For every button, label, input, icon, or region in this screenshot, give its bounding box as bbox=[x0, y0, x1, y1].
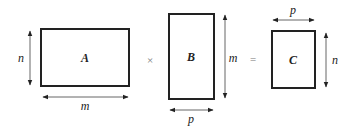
matrix-b-cols-label: p bbox=[187, 112, 194, 126]
equals-operator: = bbox=[250, 53, 256, 65]
matrix-b-rows-label: m bbox=[229, 51, 238, 65]
matrix-a-cols-label: m bbox=[81, 99, 90, 113]
matrix-a-label: A bbox=[80, 51, 89, 65]
matrix-c-rows-label: n bbox=[332, 53, 338, 67]
matrix-c: C p n bbox=[272, 3, 338, 88]
multiply-operator: × bbox=[147, 54, 153, 66]
matrix-a-rows-label: n bbox=[18, 51, 24, 65]
matrix-b: B m p bbox=[169, 14, 238, 126]
matrix-diagram: A n m × B m p = C p n bbox=[0, 0, 351, 128]
matrix-c-label: C bbox=[289, 53, 298, 67]
matrix-b-label: B bbox=[186, 50, 195, 64]
matrix-a: A n m bbox=[18, 29, 129, 113]
matrix-c-cols-label: p bbox=[289, 3, 296, 17]
